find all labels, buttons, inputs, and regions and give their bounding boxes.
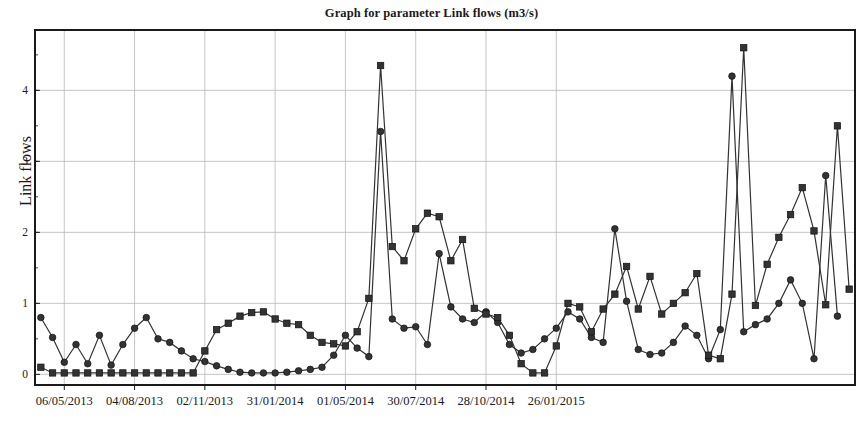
svg-text:31/01/2014: 31/01/2014 <box>247 394 305 408</box>
svg-text:26/01/2015: 26/01/2015 <box>528 394 585 408</box>
svg-text:30/07/2014: 30/07/2014 <box>387 394 445 408</box>
y-axis-ticks: 01234 <box>22 84 28 380</box>
svg-text:28/10/2014: 28/10/2014 <box>458 394 516 408</box>
x-axis-ticks: 06/05/201304/08/201302/11/201331/01/2014… <box>36 394 585 408</box>
svg-text:4: 4 <box>22 84 28 96</box>
svg-text:01/05/2014: 01/05/2014 <box>317 394 375 408</box>
svg-text:02/11/2013: 02/11/2013 <box>177 394 233 408</box>
svg-text:0: 0 <box>22 368 28 380</box>
plot-area: 01234 06/05/201304/08/201302/11/201331/0… <box>0 0 863 431</box>
svg-text:3: 3 <box>22 155 28 167</box>
svg-text:06/05/2013: 06/05/2013 <box>36 394 93 408</box>
svg-text:04/08/2013: 04/08/2013 <box>106 394 163 408</box>
chart-screenshot: Graph for parameter Link flows (m3/s) Li… <box>0 0 863 431</box>
data-series <box>38 45 853 377</box>
svg-text:1: 1 <box>22 297 28 309</box>
svg-text:2: 2 <box>22 226 28 238</box>
